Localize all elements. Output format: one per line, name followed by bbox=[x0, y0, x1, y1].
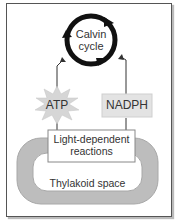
light-reactions-line2: reactions bbox=[48, 145, 135, 157]
calvin-cycle-line2: cycle bbox=[70, 40, 112, 52]
arrowhead-nadph bbox=[118, 54, 124, 60]
calvin-cycle-line1: Calvin bbox=[70, 28, 112, 40]
light-reactions-line1: Light-dependent bbox=[48, 133, 135, 145]
light-reactions-label: Light-dependent reactions bbox=[48, 133, 135, 157]
thylakoid-space-label: Thylakoid space bbox=[33, 177, 142, 189]
calvin-cycle-label: Calvin cycle bbox=[70, 28, 112, 52]
arrowhead-atp bbox=[60, 57, 66, 62]
nadph-label: NADPH bbox=[102, 99, 152, 111]
atp-label: ATP bbox=[42, 99, 72, 111]
